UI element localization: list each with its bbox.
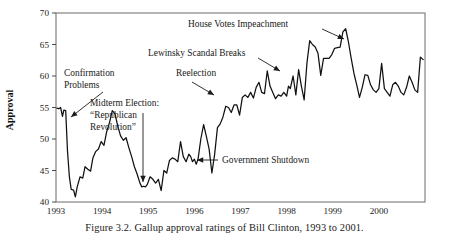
x-tick-label: 1997 <box>231 206 250 216</box>
annotation-reelection: Reelection <box>176 68 216 95</box>
annotation-label: Confirmation <box>64 68 115 78</box>
x-tick-label: 1998 <box>277 206 296 216</box>
y-tick-label: 60 <box>40 71 50 81</box>
annotation-label: Lewinsky Scandal Breaks <box>148 48 246 58</box>
x-axis-ticks: 19931994199519961997199819992000 <box>47 206 389 216</box>
annotation-label: “Republican <box>90 110 137 120</box>
y-axis-ticks: 40455055606570 <box>40 8 56 207</box>
x-tick-label: 1996 <box>185 206 204 216</box>
x-tick-label: 1994 <box>93 206 112 216</box>
y-tick-label: 50 <box>40 134 50 144</box>
annotation-arrow-head <box>71 111 78 117</box>
y-tick-label: 70 <box>40 8 50 18</box>
annotation-arrow-head <box>140 176 145 182</box>
annotation-label: Government Shutdown <box>222 155 310 165</box>
x-tick-label: 1995 <box>139 206 158 216</box>
annotation-label: Midterm Election: <box>90 98 159 108</box>
annotation-label: Problems <box>64 80 100 90</box>
figure-container: 40455055606570 1993199419951996199719981… <box>0 0 449 245</box>
x-tick-label: 1993 <box>47 206 66 216</box>
x-tick-label: 2000 <box>370 206 389 216</box>
figure-caption: Figure 3.2. Gallup approval ratings of B… <box>0 222 449 233</box>
annotation-arrow-head <box>207 90 214 95</box>
y-tick-label: 55 <box>40 103 50 113</box>
annotations-group: ConfirmationProblemsMidterm Election:“Re… <box>64 19 344 182</box>
chart-area: 40455055606570 1993199419951996199719981… <box>0 0 449 218</box>
y-tick-label: 45 <box>40 166 50 176</box>
annotation-house-votes-impeachment: House Votes Impeachment <box>188 19 344 39</box>
x-tick-label: 1999 <box>324 206 343 216</box>
approval-line-chart: 40455055606570 1993199419951996199719981… <box>0 0 449 218</box>
y-tick-label: 65 <box>40 40 50 50</box>
annotation-label: House Votes Impeachment <box>188 19 289 29</box>
annotation-arrow-head <box>273 66 280 71</box>
annotation-label: Reelection <box>176 68 216 78</box>
annotation-label: Revolution” <box>90 122 136 132</box>
y-axis-title: Approval <box>4 90 15 131</box>
y-axis-title-group: Approval <box>4 90 15 131</box>
